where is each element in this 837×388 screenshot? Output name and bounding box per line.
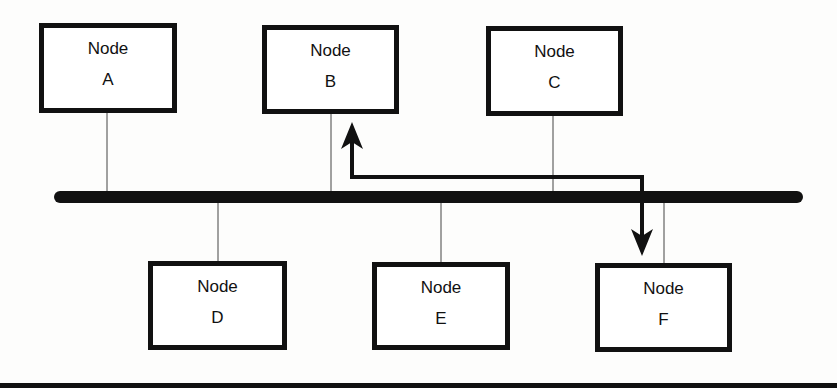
node-d-label: Node — [153, 277, 282, 297]
node-b: Node B — [262, 25, 399, 114]
node-d-id: D — [153, 308, 282, 328]
node-f: Node F — [595, 263, 732, 352]
node-f-id: F — [600, 310, 727, 330]
node-c: Node C — [486, 26, 623, 116]
node-b-label: Node — [267, 41, 394, 61]
node-a-id: A — [44, 70, 172, 90]
node-f-label: Node — [600, 279, 727, 299]
node-e-id: E — [377, 309, 505, 329]
node-d: Node D — [148, 261, 287, 350]
node-c-label: Node — [491, 42, 618, 62]
node-b-id: B — [267, 72, 394, 92]
node-c-id: C — [491, 73, 618, 93]
node-a-label: Node — [44, 39, 172, 59]
message-path-arrow — [352, 140, 642, 238]
node-a: Node A — [39, 23, 177, 113]
bottom-border-rule — [0, 383, 837, 388]
node-e-label: Node — [377, 278, 505, 298]
node-e: Node E — [372, 262, 510, 350]
